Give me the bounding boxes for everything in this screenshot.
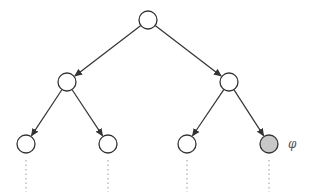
tree-nodes bbox=[17, 11, 278, 153]
tree-node-root bbox=[139, 11, 157, 29]
edge-right-to-right-left bbox=[193, 89, 224, 135]
dotted-continuations bbox=[26, 160, 269, 192]
tree-node-left bbox=[58, 73, 76, 91]
tree-node-right bbox=[220, 73, 238, 91]
phi-label: φ bbox=[288, 138, 296, 150]
tree-node-right-left bbox=[178, 135, 196, 153]
tree-node-left-right bbox=[99, 135, 117, 153]
edge-root-to-left bbox=[75, 25, 141, 75]
edge-left-to-left-left bbox=[32, 90, 63, 136]
edge-left-to-left-right bbox=[72, 90, 103, 136]
tree-node-left-left bbox=[17, 135, 35, 153]
binary-tree-diagram bbox=[0, 0, 316, 196]
edge-right-to-right-right bbox=[234, 90, 264, 136]
edge-root-to-right bbox=[155, 25, 221, 75]
tree-node-right-right-highlighted bbox=[260, 135, 278, 153]
